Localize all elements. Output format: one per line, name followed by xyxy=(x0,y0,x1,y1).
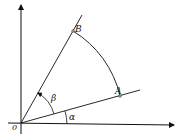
angle-alpha-arc xyxy=(65,111,67,124)
point-b-label: B xyxy=(74,24,82,34)
ray-oa xyxy=(21,90,140,123)
point-a-label: A xyxy=(114,86,122,96)
horizontal-axis xyxy=(8,123,174,125)
arc-ba xyxy=(73,31,120,96)
angle-beta-label: β xyxy=(50,93,56,103)
origin-label: 0 xyxy=(12,123,17,132)
point-b xyxy=(72,30,74,32)
angle-diagram: 0 B A β α xyxy=(0,0,177,140)
angle-alpha-label: α xyxy=(69,112,75,122)
